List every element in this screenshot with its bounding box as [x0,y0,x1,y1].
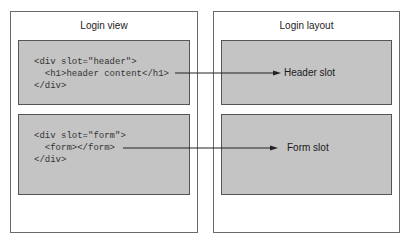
header-arrow-icon [175,71,281,76]
form-arrow-icon [123,146,278,151]
arrows [0,0,407,241]
